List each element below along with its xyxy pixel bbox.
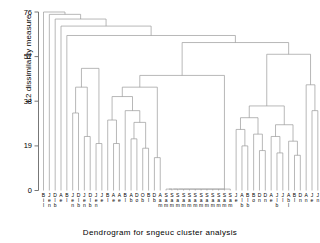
leaf-label: e [311,197,314,203]
leaf-label: m [228,202,232,208]
leaf-label: n [95,202,98,208]
leaf-label: b [153,197,156,203]
leaf-label: o [252,197,255,203]
leaf-label: e [112,197,115,203]
leaf-label: e [60,197,63,203]
y-tick-label-0: 0 [28,186,32,195]
leaf-label: m [187,202,191,208]
leaf-label: n [71,202,74,208]
leaf-label: m [182,202,186,208]
leaf-label: b [141,197,144,203]
leaf-label: m [158,202,162,208]
leaf-label: m [205,202,209,208]
leaf-label: l [148,197,149,203]
leaf-label: b [246,202,249,208]
leaf-label: m [217,202,221,208]
y-axis-title: L2 dissimilarity measure [24,0,33,139]
leaf-label: o [136,197,139,203]
leaf-label: m [222,202,226,208]
dendrogram-tree [44,12,318,191]
leaf-label-group: BilJenDlbAeBlJenDlbJenDlbJenJeBlAeAeBlAb… [42,192,320,208]
leaf-label: m [211,202,215,208]
leaf-label: m [193,202,197,208]
leaf-label: l [125,197,126,203]
y-tick-label-19: 19 [24,141,32,150]
leaf-label: n [83,202,86,208]
leaf-label: b [89,202,92,208]
leaf-label: b [54,202,57,208]
leaf-label: l [66,197,67,203]
leaf-label: b [130,197,133,203]
dendrogram-figure: L2 dissimilarity measure Dendrogram for … [0,0,320,243]
leaf-label: e [100,197,103,203]
leaf-label: l [107,197,108,203]
leaf-label: m [170,202,174,208]
leaf-label: n [305,197,308,203]
leaf-label: n [299,197,302,203]
leaf-label: b [276,202,279,208]
leaf-label: b [77,202,80,208]
leaf-label: l [43,202,44,208]
leaf-label: n [264,197,267,203]
leaf-label: n [316,197,319,203]
leaf-label: m [176,202,180,208]
leaf-label: m [199,202,203,208]
leaf-label: b [241,202,244,208]
leaf-label: e [118,197,121,203]
leaf-label: l [282,197,283,203]
leaf-label: n [48,202,51,208]
leaf-label: m [164,202,168,208]
x-axis-title: Dendrogram for sngeuc cluster analysis [0,228,320,237]
leaf-label: n [258,197,261,203]
leaf-label: e [235,197,238,203]
leaf-label: l [288,202,289,208]
leaf-label: l [294,197,295,203]
leaf-label: e [270,197,273,203]
dendrogram-canvas: 0 19 38 57 76 BilJenDlbAeBlJenDlbJenDlbJ… [0,0,320,243]
